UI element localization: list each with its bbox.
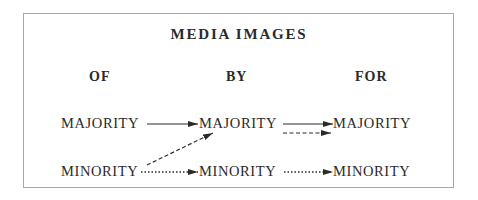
arrows-layer <box>0 0 478 200</box>
arrow-of-minority-to-by-majority-dashed <box>147 133 213 165</box>
